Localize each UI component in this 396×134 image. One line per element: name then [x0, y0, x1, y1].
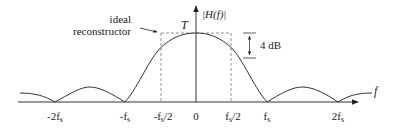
tick-fs-half: fs/2 [225, 110, 240, 124]
y-axis-label: |H(f)| [202, 8, 226, 21]
x-axis-label: f [374, 84, 379, 98]
tick-neg-fs-half: -fs/2 [153, 110, 172, 124]
tick-neg-2fs: -2fs [47, 110, 63, 124]
peak-label: T [181, 18, 189, 32]
tick-2fs: 2fs [332, 110, 344, 124]
droop-label: 4 dB [260, 39, 281, 51]
tick-zero: 0 [193, 110, 199, 122]
ideal-annotation-arrow [140, 28, 157, 32]
diagram-canvas: 4 dB ideal reconstructor T |H(f)| f -2fs… [0, 0, 396, 134]
tick-neg-fs: -fs [120, 110, 130, 124]
tick-fs: fs [264, 110, 271, 124]
ideal-label-line2: reconstructor [73, 25, 131, 37]
ideal-label-line1: ideal [110, 13, 131, 25]
droop-bracket [243, 33, 256, 58]
